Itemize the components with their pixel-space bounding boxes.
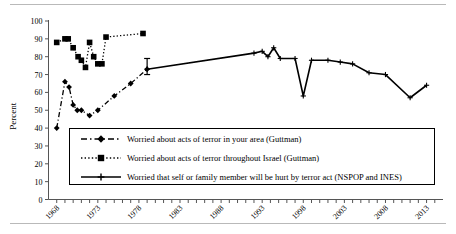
x-tick-label: 1988 — [208, 204, 226, 222]
data-point-marker — [54, 40, 60, 46]
data-point-marker — [309, 58, 314, 63]
data-point-marker — [54, 125, 60, 131]
error-bar — [144, 58, 150, 74]
y-tick-label: 10 — [35, 178, 43, 187]
y-tick-label: 90 — [35, 35, 43, 44]
data-point-marker — [70, 45, 76, 51]
legend-label-guttman-israel: Worried about acts of terror throughout … — [127, 153, 319, 163]
y-tick-label: 30 — [35, 142, 43, 151]
data-point-marker — [62, 79, 68, 85]
data-point-marker — [87, 40, 93, 46]
chart-legend: Worried about acts of terror in your are… — [69, 128, 435, 185]
legend-swatch-solid-cross — [80, 171, 122, 183]
data-point-marker — [325, 58, 330, 63]
series-line-guttman-area — [57, 69, 147, 128]
legend-item-nspop-ines: Worried that self or family member will … — [70, 167, 434, 186]
legend-swatch-dash-dot-diamond — [80, 133, 122, 145]
y-tick-label: 60 — [35, 88, 43, 97]
y-tick-label: 80 — [35, 53, 43, 62]
data-point-marker — [301, 93, 306, 98]
x-tick-label: 1993 — [249, 204, 267, 222]
legend-swatch-dotted-square — [80, 152, 122, 164]
data-point-marker — [103, 34, 109, 40]
x-tick-label: 1968 — [43, 204, 61, 222]
legend-item-guttman-area: Worried about acts of terror in your are… — [70, 129, 434, 148]
legend-label-nspop-ines: Worried that self or family member will … — [127, 172, 402, 182]
data-point-marker — [251, 51, 256, 56]
data-point-marker — [65, 36, 71, 42]
x-tick-label: 1973 — [85, 204, 103, 222]
y-tick-label: 50 — [35, 106, 43, 115]
y-axis-label-text: Percent — [8, 102, 18, 129]
x-tick-label: 1983 — [167, 204, 185, 222]
data-point-marker — [66, 84, 72, 90]
data-point-marker — [91, 54, 97, 60]
y-tick-label: 70 — [35, 71, 43, 80]
data-point-marker — [140, 31, 146, 37]
y-tick-label: 100 — [31, 17, 43, 26]
data-point-marker — [292, 56, 297, 61]
data-point-marker — [99, 61, 105, 67]
data-point-marker — [78, 107, 84, 113]
y-axis-title: Percent — [8, 102, 18, 129]
x-tick-label: 1998 — [290, 204, 308, 222]
series-line-nspop-ines — [147, 48, 426, 98]
data-series-group — [54, 31, 429, 131]
data-point-marker — [79, 57, 85, 63]
y-tick-label: 20 — [35, 160, 43, 169]
data-point-marker — [338, 59, 343, 64]
legend-item-guttman-israel: Worried about acts of terror throughout … — [70, 148, 434, 167]
x-tick-label: 2008 — [372, 204, 390, 222]
y-axis: 0102030405060708090100 — [31, 17, 49, 205]
line-chart-plot: 0102030405060708090100 19681973197819831… — [0, 0, 456, 234]
y-tick-label: 40 — [35, 124, 43, 133]
x-tick-label: 1978 — [126, 204, 144, 222]
x-tick-label: 2003 — [331, 204, 349, 222]
data-point-marker — [83, 65, 89, 71]
x-axis: 1968197319781983198819931998200320082013 — [43, 200, 443, 222]
x-tick-label: 2013 — [413, 204, 431, 222]
y-tick-label: 0 — [39, 196, 43, 205]
legend-label-guttman-area: Worried about acts of terror in your are… — [127, 134, 301, 144]
figure-container: 0102030405060708090100 19681973197819831… — [0, 0, 456, 234]
